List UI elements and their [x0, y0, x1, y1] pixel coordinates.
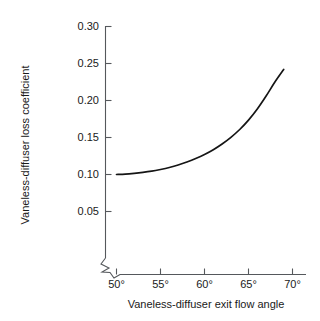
y-tick-label-0.30: 0.30	[78, 20, 99, 32]
chart-canvas: 0.30 0.25 0.20 0.15 0.10 0.05 50° 55° 60…	[0, 0, 320, 321]
y-tick-label-0.05: 0.05	[78, 205, 99, 217]
y-tick-label-0.25: 0.25	[78, 57, 99, 69]
x-tick-label-70: 70°	[284, 278, 301, 290]
x-tick-label-65: 65°	[240, 278, 257, 290]
chart-figure: 0.30 0.25 0.20 0.15 0.10 0.05 50° 55° 60…	[0, 0, 320, 321]
x-axis-title: Vaneless-diffuser exit flow angle	[128, 298, 285, 310]
y-axis-title: Vaneless-diffuser loss coefficient	[19, 66, 31, 225]
y-tick-label-0.10: 0.10	[78, 168, 99, 180]
y-tick-label-0.20: 0.20	[78, 94, 99, 106]
x-tick-label-55: 55°	[152, 278, 169, 290]
x-tick-label-60: 60°	[196, 278, 213, 290]
y-tick-label-0.15: 0.15	[78, 131, 99, 143]
x-tick-label-50: 50°	[108, 278, 125, 290]
